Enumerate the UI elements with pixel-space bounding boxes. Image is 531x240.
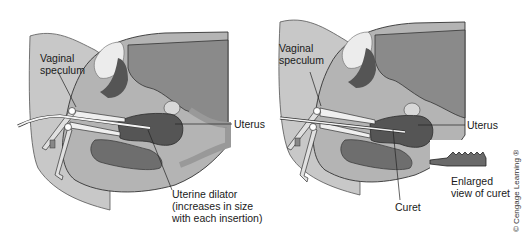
speculum-screw xyxy=(50,140,55,148)
label-uterine-dilator: Uterine dilator (increases in size with … xyxy=(172,188,262,224)
speculum-hinge-upper xyxy=(314,108,321,115)
speculum-hinge-lower xyxy=(310,124,317,131)
label-line: Vaginal xyxy=(279,42,324,54)
ovary xyxy=(404,103,420,117)
label-line: view of curet xyxy=(451,187,510,199)
panel-curettage: Vaginal speculum Uterus Curet Enlarged v… xyxy=(265,0,531,240)
label-uterus: Uterus xyxy=(467,119,498,131)
ovary xyxy=(164,101,180,115)
speculum-hinge-upper xyxy=(69,108,76,115)
label-line: Uterine dilator xyxy=(172,188,262,200)
label-line: speculum xyxy=(40,64,85,76)
label-line: Enlarged xyxy=(451,175,510,187)
label-line: with each insertion) xyxy=(172,212,262,224)
label-vaginal-speculum: Vaginal speculum xyxy=(40,52,85,76)
label-line: Vaginal xyxy=(40,52,85,64)
speculum-screw xyxy=(295,138,300,146)
label-curet: Curet xyxy=(395,201,421,213)
label-vaginal-speculum: Vaginal speculum xyxy=(279,42,324,66)
panel-dilation: Vaginal speculum Uterus Uterine dilator … xyxy=(0,0,265,240)
label-enlarged-view: Enlarged view of curet xyxy=(451,175,510,199)
speculum-hinge-lower xyxy=(65,124,72,131)
label-uterus: Uterus xyxy=(234,118,265,130)
copyright-notice: © Cengage Learning ® xyxy=(512,150,521,232)
label-line: (increases in size xyxy=(172,200,262,212)
label-line: speculum xyxy=(279,54,324,66)
